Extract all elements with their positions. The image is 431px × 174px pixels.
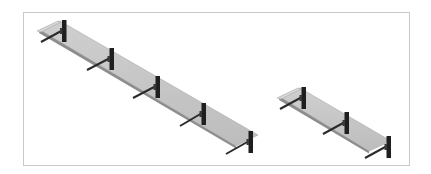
glass-panel <box>40 21 258 146</box>
shelf-illustration <box>0 0 431 174</box>
long-glass-shelf <box>37 20 258 154</box>
short-glass-shelf <box>277 87 391 158</box>
glass-panel <box>280 88 391 151</box>
glass-front-edge <box>39 30 236 149</box>
